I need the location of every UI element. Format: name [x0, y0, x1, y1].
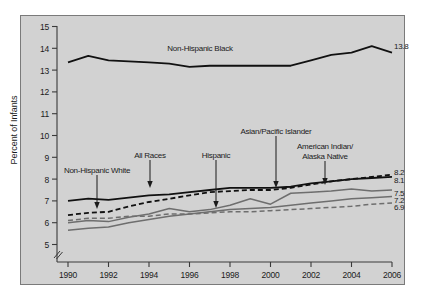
series-line	[68, 197, 392, 231]
leader-hispanic	[213, 160, 218, 208]
x-tick-label: 1990	[53, 270, 83, 280]
x-tick-label: 2004	[337, 270, 367, 280]
series-line	[68, 177, 392, 201]
end-label-non-hispanic-black: 13.8	[394, 42, 408, 51]
annotation-aian-line1: American Indian/	[297, 142, 353, 151]
annotation-all-races: All Races	[115, 151, 185, 161]
y-tick-label: 12	[33, 87, 49, 97]
annotation-aian-line2: Alaska Native	[302, 152, 348, 161]
y-tick-label: 10	[33, 131, 49, 141]
x-tick-label: 1998	[215, 270, 245, 280]
y-axis-title: Percent of Infants	[9, 85, 19, 175]
y-tick-label: 14	[33, 44, 49, 54]
y-tick-label: 11	[33, 109, 49, 119]
annotation-american-indian-alaska-native: American Indian/ Alaska Native	[270, 142, 380, 161]
y-tick-marks	[52, 27, 57, 245]
y-tick-label: 13	[33, 66, 49, 76]
axis-break-symbol	[54, 251, 63, 259]
x-tick-label: 2002	[296, 270, 326, 280]
y-tick-label: 9	[33, 153, 49, 163]
leader-non-hispanic-white	[94, 175, 99, 209]
annotation-non-hispanic-black: Non-Hispanic Black	[145, 44, 255, 54]
x-tick-marks	[68, 262, 392, 267]
annotation-non-hispanic-white: Non-Hispanic White	[42, 166, 152, 176]
annotation-asian-pacific-islander: Asian/Pacific Islander	[216, 127, 336, 137]
annotation-hispanic: Hispanic	[186, 151, 246, 161]
y-tick-label: 7	[33, 196, 49, 206]
y-tick-label: 8	[33, 175, 49, 185]
y-tick-label: 15	[33, 22, 49, 32]
y-tick-label: 6	[33, 218, 49, 228]
x-tick-label: 1994	[134, 270, 164, 280]
y-tick-label: 5	[33, 240, 49, 250]
x-tick-label: 2006	[377, 270, 407, 280]
series-layer	[68, 46, 392, 230]
x-tick-label: 1992	[94, 270, 124, 280]
x-tick-label: 2000	[256, 270, 286, 280]
x-tick-label: 1996	[175, 270, 205, 280]
end-label-all-races: 8.1	[394, 176, 404, 185]
figure: Percent of Infants 15 14 13 12 11 10 9 8…	[0, 0, 423, 308]
end-label-asian-pacific: 6.9	[394, 203, 404, 212]
